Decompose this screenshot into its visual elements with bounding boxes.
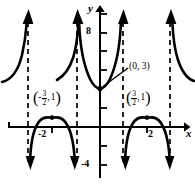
x-axis-label: x xyxy=(186,128,192,139)
y-tick-label-neg4: -4 xyxy=(81,159,89,169)
arrow-down-3-inner xyxy=(165,156,174,170)
point-dot-0-3 xyxy=(97,86,102,91)
arrow-down-neg1-inner xyxy=(70,156,79,170)
arrow-up-neg3-right xyxy=(23,9,34,24)
point-dot-1.5-1 xyxy=(145,115,150,120)
arrow-up-neg1-left xyxy=(72,9,83,24)
graph-canvas xyxy=(0,0,195,184)
right-close-paren: ) xyxy=(145,90,150,106)
x-tick-label-neg2: -2 xyxy=(38,129,46,139)
branch-upper-right-edge xyxy=(172,24,194,81)
annotation-left-local-max: ( - 3 2 , 1 ) xyxy=(33,90,61,106)
point-dot-neg1.5-1 xyxy=(50,115,55,120)
branch-upper-left-edge xyxy=(2,24,27,82)
left-close-paren: ) xyxy=(55,90,60,106)
y-axis-arrowhead xyxy=(95,5,104,12)
y-axis-label: y xyxy=(88,3,93,14)
y-tick-label-8: 8 xyxy=(86,26,91,36)
annotation-y-intercept: (0, 3) xyxy=(129,62,150,72)
arrow-up-3-right xyxy=(165,9,176,24)
branch-upper-neg1-left xyxy=(57,24,78,80)
upper-branches-group xyxy=(2,24,194,89)
arrow-down-1-inner xyxy=(121,156,130,170)
graph-figure: y x 8 -4 -2 2 (0, 3) ( - 3 2 , 1 ) ( 3 2… xyxy=(0,0,195,184)
arrow-down-neg3-inner xyxy=(26,156,35,170)
annotation-right-local-max: ( 3 2 , 1 ) xyxy=(126,90,151,106)
arch-lower-left xyxy=(30,117,74,158)
arrow-up-1-right xyxy=(118,9,128,24)
x-tick-label-2: 2 xyxy=(148,129,153,139)
